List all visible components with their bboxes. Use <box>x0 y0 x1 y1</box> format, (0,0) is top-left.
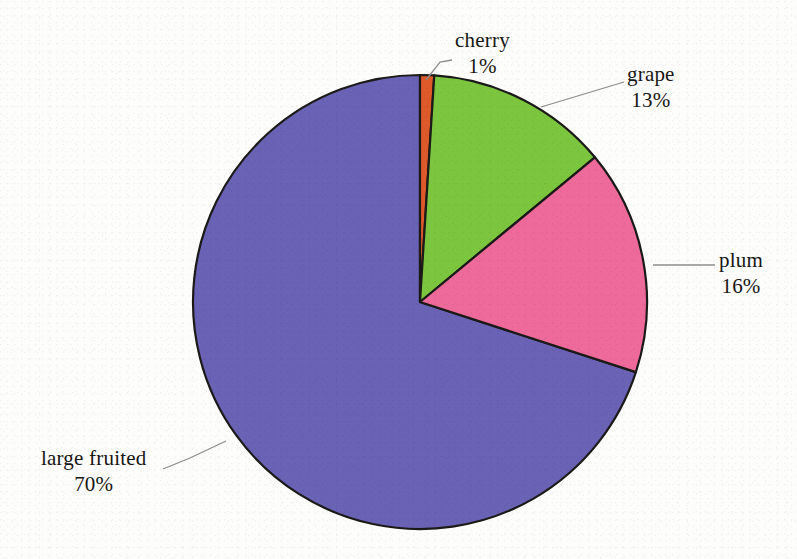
slice-label-grape-percent: 13% <box>627 88 675 114</box>
slice-label-large-fruited-name: large fruited <box>41 446 146 470</box>
slice-label-large-fruited-percent: 70% <box>41 472 146 498</box>
slice-label-plum: plum 16% <box>719 248 763 299</box>
leader-line-large-fruited <box>163 441 226 469</box>
pie-chart-figure: cherry 1% grape 13% plum 16% large fruit… <box>0 0 797 559</box>
pie-slices <box>193 75 647 529</box>
leader-line-grape <box>541 82 624 107</box>
slice-label-plum-percent: 16% <box>719 274 763 300</box>
slice-label-large-fruited: large fruited 70% <box>41 446 146 497</box>
slice-label-cherry: cherry 1% <box>455 28 510 79</box>
slice-label-plum-name: plum <box>719 248 763 272</box>
slice-label-cherry-name: cherry <box>455 28 510 52</box>
slice-label-cherry-percent: 1% <box>455 54 510 80</box>
slice-label-grape: grape 13% <box>627 62 675 113</box>
slice-label-grape-name: grape <box>627 62 675 86</box>
